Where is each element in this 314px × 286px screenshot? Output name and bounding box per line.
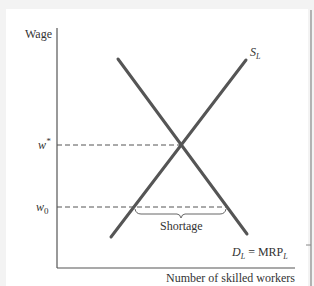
shortage-brace xyxy=(135,209,226,218)
labor-market-chart: Wage w* w0 SL DL = MRPL Shortage Number … xyxy=(0,0,314,286)
w0-label: w0 xyxy=(36,200,49,216)
x-axis-label: Number of skilled workers xyxy=(166,271,295,285)
y-axis-label: Wage xyxy=(25,27,52,41)
supply-label: SL xyxy=(250,45,261,61)
shortage-label: Shortage xyxy=(160,219,203,233)
wstar-label: w* xyxy=(38,136,51,152)
demand-label: DL = MRPL xyxy=(231,245,288,261)
